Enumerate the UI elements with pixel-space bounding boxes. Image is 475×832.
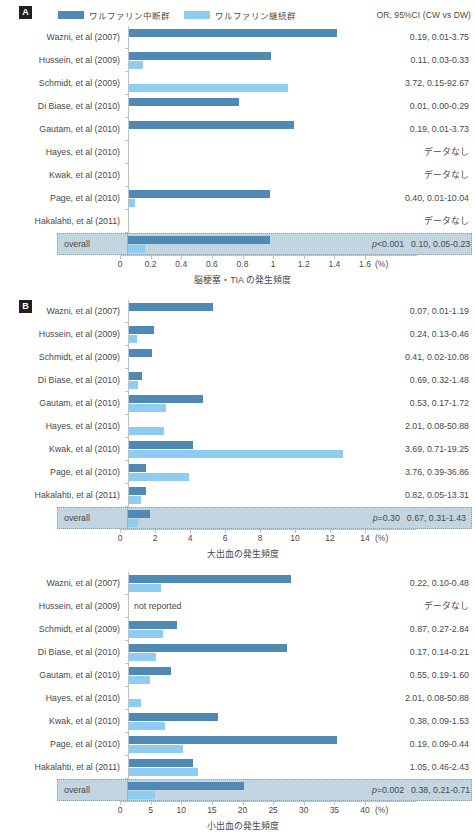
bar-cw (129, 722, 165, 730)
study-row: Gautam, et al (2010)0.19, 0.01-3.73 (0, 118, 475, 141)
legend-swatch-discontinued (58, 11, 84, 19)
bar-cell (128, 392, 373, 415)
study-row: Hayes, et al (2010)2.01, 0.08-50.88 (0, 415, 475, 438)
study-row: Hussein, et al (2009)0.11, 0.03-0.33 (0, 49, 475, 72)
study-label: Di Biase, et al (2010) (0, 95, 128, 118)
bar-cw (129, 630, 163, 638)
bar-cw (129, 61, 143, 69)
study-label: Schmidt, et al (2009) (0, 346, 128, 369)
bar-cell (128, 164, 373, 187)
or-value: 1.05, 0.46-2.43 (373, 756, 475, 779)
bar-dw (129, 190, 270, 198)
bar-cw (129, 427, 164, 435)
or-value: 0.19, 0.01-3.73 (373, 118, 475, 141)
axis-tick-label: 0 (118, 533, 123, 543)
bar-dw (129, 349, 152, 357)
axis-tick-label: 0.2 (145, 259, 157, 269)
axis-tick-label: 10 (177, 805, 186, 815)
study-row: Hussein, et al (2009)0.24, 0.13-0.46 (0, 323, 475, 346)
or-value: データなし (373, 164, 475, 187)
axis-unit: (%) (375, 533, 388, 543)
bar-cw (129, 381, 138, 389)
axis-tick-label: 14 (360, 533, 369, 543)
legend-item-discontinued: ワルファリン中断群 (58, 9, 170, 21)
not-reported-text: not reported (134, 595, 181, 618)
bar-cw (129, 676, 150, 684)
or-value: 2.01, 0.08-50.88 (373, 415, 475, 438)
study-label: Gautam, et al (2010) (0, 118, 128, 141)
or-value: 3.76, 0.39-36.86 (373, 461, 475, 484)
bar-cell (128, 641, 373, 664)
overall-row: overallp<0.0010.10, 0.05-0.23 (57, 233, 472, 255)
bar-cell (128, 756, 373, 779)
axis-line (120, 529, 417, 530)
p-value: p=0.30 (372, 508, 407, 528)
axis-tick-label: 1 (271, 259, 276, 269)
bar-cw (129, 199, 135, 207)
study-row: Schmidt, et al (2009)0.41, 0.02-10.08 (0, 346, 475, 369)
or-value: 0.55, 0.19-1.60 (373, 664, 475, 687)
p-value-number: <0.001 (377, 239, 404, 249)
overall-bar-cell (127, 234, 372, 254)
overall-bar-cw (128, 791, 155, 799)
panel-c-axis-title: 小出血の発生頻度 (120, 819, 365, 832)
bar-dw (129, 621, 177, 629)
study-row: Hussein, et al (2009)not reportedデータなし (0, 595, 475, 618)
bar-cw (129, 745, 183, 753)
or-value: 0.53, 0.17-1.72 (373, 392, 475, 415)
study-label: Hussein, et al (2009) (0, 595, 128, 618)
axis-tick-label: 0.6 (206, 259, 218, 269)
study-label: Di Biase, et al (2010) (0, 369, 128, 392)
or-value: 0.41, 0.02-10.08 (373, 346, 475, 369)
bar-cw (129, 584, 161, 592)
study-row: Wazni, et al (2007)0.19, 0.01-3.75 (0, 26, 475, 49)
study-label: Hakalahti, et al (2011) (0, 210, 128, 233)
panel-a-axis-title: 脳梗塞・TIA の発生頻度 (120, 273, 365, 286)
bar-dw (129, 372, 142, 380)
bar-dw (129, 487, 146, 495)
overall-bar-cw (128, 519, 138, 527)
axis-tick-label: 25 (268, 805, 277, 815)
bar-cell (128, 95, 373, 118)
axis-tick-label: 35 (330, 805, 339, 815)
bar-cw (129, 84, 288, 92)
study-row: Hayes, et al (2010)データなし (0, 141, 475, 164)
legend-label-continued: ワルファリン継続群 (215, 9, 296, 21)
study-label: Page, et al (2010) (0, 733, 128, 756)
axis-tick-label: 0.8 (237, 259, 249, 269)
axis-tick-label: 0 (118, 259, 123, 269)
axis-tick-label: 12 (325, 533, 334, 543)
or-value: 0.01, 0.00-0.29 (373, 95, 475, 118)
overall-or-value: 0.38, 0.21-0.71 (411, 780, 475, 800)
bar-dw (129, 464, 146, 472)
or-value: データなし (373, 595, 475, 618)
bar-cell (128, 733, 373, 756)
panel-b-rows: Wazni, et al (2007)0.07, 0.01-1.19Hussei… (0, 300, 475, 529)
panel-c-rows: Wazni, et al (2007)0.22, 0.10-0.48Hussei… (0, 572, 475, 801)
or-value: 0.19, 0.01-3.75 (373, 26, 475, 49)
bar-dw (129, 575, 291, 583)
bar-cell (128, 210, 373, 233)
or-value: データなし (373, 141, 475, 164)
axis-unit: (%) (375, 805, 388, 815)
or-value: 0.87, 0.27-2.84 (373, 618, 475, 641)
or-value: 2.01, 0.08-50.88 (373, 687, 475, 710)
bar-cell (128, 187, 373, 210)
bar-cell (128, 72, 373, 95)
study-label: Di Biase, et al (2010) (0, 641, 128, 664)
overall-bar-cell (127, 508, 372, 528)
axis-tick-label: 0.4 (175, 259, 187, 269)
study-row: Kwak, et al (2010)3.69, 0.71-19.25 (0, 438, 475, 461)
or-value: 0.38, 0.09-1.53 (373, 710, 475, 733)
study-label: Hussein, et al (2009) (0, 323, 128, 346)
bar-cw (129, 335, 137, 343)
p-value-number: =0.30 (378, 513, 400, 523)
legend-swatch-continued (184, 11, 210, 19)
study-row: Kwak, et al (2010)0.38, 0.09-1.53 (0, 710, 475, 733)
axis-tick-label: 8 (258, 533, 263, 543)
study-row: Page, et al (2010)0.19, 0.09-0.44 (0, 733, 475, 756)
study-row: Hakalahti, et al (2011)1.05, 0.46-2.43 (0, 756, 475, 779)
study-row: Di Biase, et al (2010)0.69, 0.32-1.48 (0, 369, 475, 392)
bar-dw (129, 29, 337, 37)
panel-b: B Wazni, et al (2007)0.07, 0.01-1.19Huss… (0, 286, 475, 560)
